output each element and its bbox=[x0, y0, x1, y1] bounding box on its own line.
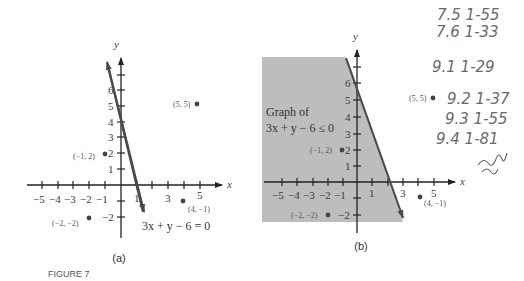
svg-text:4: 4 bbox=[345, 111, 351, 123]
svg-text:6: 6 bbox=[345, 77, 351, 89]
svg-text:2: 2 bbox=[345, 144, 351, 156]
point-label-5-5: (5, 5) bbox=[173, 100, 191, 109]
point-label-4-neg1-b: (4, −1) bbox=[424, 199, 446, 208]
figure-7: x y −5 −4 −3 −2 −1 1 3 5 bbox=[0, 0, 524, 281]
point-label-neg1-2: (−1, 2) bbox=[73, 152, 95, 161]
x-axis-name: x bbox=[226, 178, 232, 190]
svg-text:4: 4 bbox=[108, 116, 114, 128]
note-line-1: 7.5 1-55 bbox=[437, 6, 500, 24]
svg-text:1: 1 bbox=[369, 187, 375, 199]
y-axis-name-b: y bbox=[352, 30, 358, 42]
shaded-label-line1: Graph of bbox=[266, 105, 309, 119]
svg-text:−2: −2 bbox=[80, 193, 92, 205]
note-line-2: 7.6 1-33 bbox=[436, 23, 499, 41]
note-line-6: 9.4 1-81 bbox=[436, 130, 499, 148]
point-neg2-neg2 bbox=[87, 216, 92, 221]
svg-text:−2: −2 bbox=[102, 211, 114, 223]
point-label-5-5-b: (5, 5) bbox=[409, 94, 427, 103]
svg-text:1: 1 bbox=[108, 163, 114, 175]
point-neg2-neg2-b bbox=[326, 213, 331, 218]
svg-text:−5: −5 bbox=[33, 193, 45, 205]
point-label-neg1-2-b: (−1, 2) bbox=[310, 146, 332, 155]
equation-label: 3x + y − 6 = 0 bbox=[142, 219, 210, 233]
scribble bbox=[478, 153, 507, 174]
svg-text:1: 1 bbox=[345, 160, 351, 172]
panel-label-a: (a) bbox=[112, 252, 125, 264]
point-neg1-2 bbox=[103, 152, 108, 157]
svg-text:−1: −1 bbox=[96, 193, 108, 205]
point-label-neg2-neg2: (−2, −2) bbox=[52, 219, 79, 228]
point-4-neg1-b bbox=[418, 195, 423, 200]
svg-text:−3: −3 bbox=[64, 193, 76, 205]
figure-caption: FIGURE 7 bbox=[48, 269, 90, 279]
panel-a: x y −5 −4 −3 −2 −1 1 3 5 bbox=[27, 38, 232, 264]
svg-text:5: 5 bbox=[431, 187, 437, 199]
note-line-5: 9.3 1-55 bbox=[445, 110, 508, 128]
point-label-4-neg1: (4, −1) bbox=[188, 205, 210, 214]
x-tick-labels: −5 −4 −3 −2 −1 1 3 5 bbox=[33, 189, 203, 205]
point-4-neg1 bbox=[181, 199, 186, 204]
svg-text:−1: −1 bbox=[334, 189, 346, 201]
note-line-4: 9.2 1-37 bbox=[447, 90, 510, 108]
svg-text:3: 3 bbox=[400, 187, 406, 199]
svg-text:5: 5 bbox=[108, 100, 114, 112]
point-5-5-b bbox=[431, 96, 436, 101]
svg-text:−4: −4 bbox=[288, 189, 300, 201]
svg-text:3: 3 bbox=[108, 131, 114, 143]
svg-text:−2: −2 bbox=[338, 209, 350, 221]
x-axis-name-b: x bbox=[459, 175, 465, 187]
svg-text:−5: −5 bbox=[272, 189, 284, 201]
svg-text:5: 5 bbox=[345, 94, 351, 106]
point-neg1-2-b bbox=[340, 148, 345, 153]
y-axis-name: y bbox=[113, 38, 119, 50]
shaded-label-line2: 3x + y − 6 ≤ 0 bbox=[266, 121, 334, 135]
note-line-3: 9.1 1-29 bbox=[432, 58, 495, 76]
svg-text:−4: −4 bbox=[49, 193, 61, 205]
svg-text:5: 5 bbox=[197, 189, 203, 201]
svg-text:3: 3 bbox=[165, 192, 171, 204]
handwritten-notes: 7.5 1-55 7.6 1-33 9.1 1-29 9.2 1-37 9.3 … bbox=[432, 6, 510, 174]
svg-text:−3: −3 bbox=[303, 189, 315, 201]
svg-text:−2: −2 bbox=[319, 189, 331, 201]
point-label-neg2-neg2-b: (−2, −2) bbox=[291, 211, 318, 220]
point-5-5 bbox=[195, 102, 200, 107]
svg-text:2: 2 bbox=[108, 147, 114, 159]
panel-label-b: (b) bbox=[354, 240, 367, 252]
svg-text:3: 3 bbox=[345, 128, 351, 140]
